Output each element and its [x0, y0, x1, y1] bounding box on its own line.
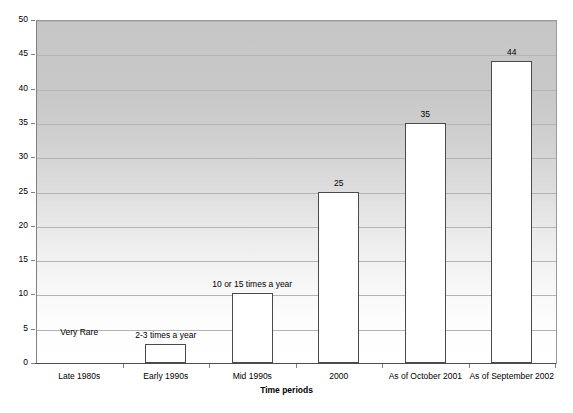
gridline — [37, 261, 556, 262]
y-axis: 05101520253035404550 — [0, 0, 33, 413]
y-tick-label: 10 — [19, 289, 28, 298]
y-tick-mark — [31, 54, 35, 55]
x-tick-label: Mid 1990s — [233, 371, 272, 381]
y-tick-mark — [31, 260, 35, 261]
y-tick-label: 20 — [19, 221, 28, 230]
bar — [232, 293, 273, 363]
x-tick-mark — [123, 364, 124, 368]
y-tick-label: 0 — [23, 358, 28, 367]
data-label: 2-3 times a year — [135, 330, 196, 340]
x-tick-label: Early 1990s — [143, 371, 188, 381]
x-tick-label: Late 1980s — [58, 371, 100, 381]
bar — [318, 192, 359, 364]
bar — [491, 61, 532, 363]
y-tick-mark — [31, 20, 35, 21]
gridline — [37, 295, 556, 296]
data-label: 35 — [421, 109, 430, 119]
x-tick-label: As of September 2002 — [469, 371, 554, 381]
y-tick-mark — [31, 157, 35, 158]
y-tick-mark — [31, 89, 35, 90]
x-tick-mark — [555, 364, 556, 368]
y-tick-mark — [31, 329, 35, 330]
x-tick-label: As of October 2001 — [389, 371, 462, 381]
y-tick-mark — [31, 226, 35, 227]
y-tick-label: 35 — [19, 118, 28, 127]
gridline — [37, 55, 556, 56]
y-tick-mark — [31, 123, 35, 124]
data-label: 10 or 15 times a year — [212, 279, 292, 289]
x-tick-mark — [209, 364, 210, 368]
gridline — [37, 90, 556, 91]
bar — [405, 123, 446, 363]
y-tick-mark — [31, 192, 35, 193]
x-tick-label: 2000 — [329, 371, 348, 381]
bar-chart: 05101520253035404550 Very Rare2-3 times … — [0, 0, 573, 413]
data-label: Very Rare — [60, 327, 98, 337]
bar — [145, 344, 186, 363]
gridline — [37, 21, 556, 22]
gridline — [37, 193, 556, 194]
y-tick-label: 30 — [19, 152, 28, 161]
x-axis-title: Time periods — [0, 385, 573, 395]
gridline — [37, 124, 556, 125]
y-tick-label: 40 — [19, 84, 28, 93]
gridline — [37, 158, 556, 159]
y-tick-label: 15 — [19, 255, 28, 264]
gridline — [37, 330, 556, 331]
y-tick-label: 25 — [19, 187, 28, 196]
x-tick-mark — [469, 364, 470, 368]
y-tick-label: 45 — [19, 49, 28, 58]
plot-area — [36, 20, 557, 364]
x-tick-mark — [296, 364, 297, 368]
data-label: 44 — [507, 47, 516, 57]
x-tick-mark — [382, 364, 383, 368]
data-label: 25 — [334, 178, 343, 188]
y-tick-mark — [31, 294, 35, 295]
gridline — [37, 227, 556, 228]
y-tick-label: 50 — [19, 15, 28, 24]
y-tick-label: 5 — [23, 324, 28, 333]
